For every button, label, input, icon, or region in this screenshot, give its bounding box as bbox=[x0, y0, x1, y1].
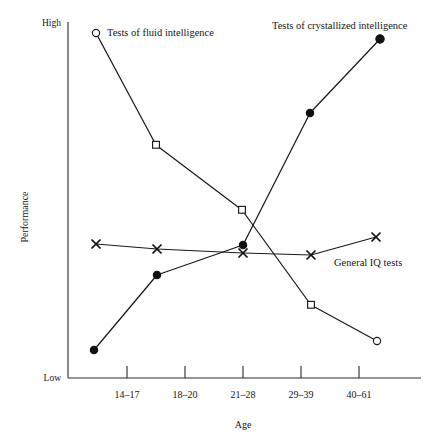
x-tick-label-5: 40–61 bbox=[347, 389, 372, 400]
fluid-point-1 bbox=[92, 29, 99, 36]
series-label-fluid: Tests of fluid intelligence bbox=[107, 27, 214, 38]
x-axis-title: Age bbox=[235, 419, 252, 430]
y-axis-low-label: Low bbox=[44, 373, 62, 383]
series-crystallized-line bbox=[94, 39, 380, 350]
crystallized-point-4 bbox=[306, 109, 313, 116]
fluid-point-4 bbox=[308, 301, 315, 308]
fluid-point-3 bbox=[239, 206, 246, 213]
x-tick-label-3: 21–28 bbox=[231, 389, 256, 400]
series-fluid-intelligence bbox=[92, 29, 380, 344]
crystallized-point-3 bbox=[239, 241, 246, 248]
x-tick-label-1: 14–17 bbox=[115, 389, 140, 400]
series-crystallized-intelligence bbox=[90, 35, 384, 354]
crystallized-point-2 bbox=[153, 271, 160, 278]
crystallized-point-1 bbox=[90, 346, 97, 353]
series-label-iq: General IQ tests bbox=[334, 257, 402, 268]
iq-point-5 bbox=[372, 233, 381, 242]
y-axis-title: Performance bbox=[19, 191, 30, 243]
fluid-point-5 bbox=[373, 337, 380, 344]
series-iq-line bbox=[96, 237, 376, 255]
series-general-iq-tests bbox=[92, 233, 381, 260]
series-fluid-line bbox=[96, 33, 377, 341]
series-label-crystallized: Tests of crystallized intelligence bbox=[272, 20, 408, 31]
y-axis-high-label: High bbox=[42, 18, 61, 28]
x-tick-label-4: 29–39 bbox=[289, 389, 314, 400]
crystallized-point-5 bbox=[376, 35, 384, 43]
x-tick-label-2: 18–20 bbox=[173, 389, 198, 400]
x-axis-ticks bbox=[127, 366, 359, 378]
line-chart: High Low 14–17 18–20 21–28 29–39 40–61 A… bbox=[0, 0, 440, 445]
chart-container: High Low 14–17 18–20 21–28 29–39 40–61 A… bbox=[0, 0, 440, 445]
fluid-point-2 bbox=[153, 141, 160, 148]
